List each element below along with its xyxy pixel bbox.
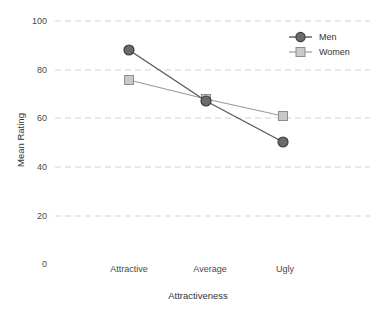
y-tick-label-80: 80 <box>37 65 47 75</box>
x-tick-label-average: Average <box>193 264 226 274</box>
y-tick-label-0: 0 <box>42 259 47 269</box>
y-tick-label-40: 40 <box>37 162 47 172</box>
chart-canvas: 100 80 60 40 20 0 Mean Rating Attractive… <box>0 0 374 313</box>
men-point-average <box>201 96 211 106</box>
y-tick-label-60: 60 <box>37 113 47 123</box>
y-tick-label-20: 20 <box>37 211 47 221</box>
chart-legend: Men Women <box>289 32 350 57</box>
series-men <box>124 45 288 147</box>
interaction-line-chart: 100 80 60 40 20 0 Mean Rating Attractive… <box>0 0 374 313</box>
x-axis-tick-labels: Attractive Average Ugly <box>110 264 294 274</box>
legend-label-men: Men <box>319 32 337 42</box>
legend-item-men[interactable]: Men <box>289 32 337 42</box>
x-tick-label-ugly: Ugly <box>276 264 295 274</box>
legend-item-women[interactable]: Women <box>289 47 350 57</box>
y-axis-tick-labels: 100 80 60 40 20 0 <box>32 16 47 269</box>
men-point-ugly <box>278 137 288 147</box>
x-axis-title: Attractiveness <box>168 290 228 301</box>
men-point-attractive <box>124 45 134 55</box>
women-point-ugly <box>279 112 288 121</box>
y-axis-title: Mean Rating <box>15 113 26 167</box>
legend-label-women: Women <box>319 47 350 57</box>
legend-marker-circle-icon <box>296 32 305 41</box>
x-tick-label-attractive: Attractive <box>110 264 148 274</box>
women-point-attractive <box>125 76 134 85</box>
y-tick-label-100: 100 <box>32 16 47 26</box>
legend-marker-square-icon <box>296 48 305 57</box>
